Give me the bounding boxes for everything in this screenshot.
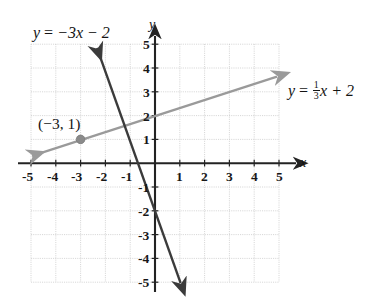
x-tick-label--2: -2 [96,170,107,184]
y-tick-label-3: 3 [143,86,150,100]
y-tick-label-2: 2 [143,110,150,124]
x-tick-label--1: -1 [121,170,132,184]
y-tick-label--4: -4 [138,252,149,266]
y-tick-label-1: 1 [143,133,150,147]
y-tick-label-4: 4 [143,62,150,76]
point-coordinate-label: (−3, 1) [38,116,80,132]
x-tick-label--5: -5 [22,170,33,184]
y-tick-label-5: 5 [143,38,150,52]
equation-label-line-two: y = 13x + 2 [288,80,354,101]
equation-one-equals: = [40,24,57,41]
x-tick-label-1: 1 [176,170,183,184]
x-tick-label-2: 2 [201,170,208,184]
fraction-numerator: 1 [313,80,320,90]
equation-one-rhs: −3x − 2 [57,24,110,41]
y-tick-label--2: -2 [138,205,149,219]
y-axis-name: y [149,18,155,32]
coordinate-plane-svg [0,0,380,306]
x-tick-label--3: -3 [71,170,82,184]
equation-two-rhs: x + 2 [320,82,354,99]
line-negative-3x-minus-2 [97,48,181,283]
x-axis-name: x [300,156,306,170]
graph-figure: -5 -4 -3 -2 -1 1 2 3 4 5 5 4 3 2 1 -1 -2… [0,0,380,306]
x-tick-label-5: 5 [276,170,283,184]
x-tick-label-4: 4 [251,170,258,184]
y-tick-label--1: -1 [138,181,149,195]
x-tick-label-3: 3 [226,170,233,184]
equation-label-line-one: y = −3x − 2 [33,25,110,41]
equation-two-equals: = [295,82,312,99]
x-tick-label--4: -4 [47,170,58,184]
fraction-denominator: 3 [313,90,320,101]
y-tick-label--5: -5 [138,276,149,290]
plotted-point-marker [76,135,85,144]
y-tick-label--3: -3 [138,229,149,243]
one-third-fraction: 13 [313,80,320,101]
